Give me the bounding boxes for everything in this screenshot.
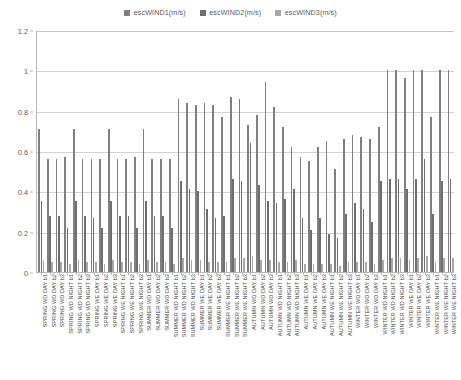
- bar-series-3[interactable]: [208, 262, 210, 272]
- bar-series-3[interactable]: [356, 262, 358, 272]
- bar-series-3[interactable]: [130, 262, 132, 272]
- x-axis-tick-label: AUTUMN WE DAY b1: [304, 274, 310, 330]
- bar-series-3[interactable]: [365, 262, 367, 272]
- x-axis-tick-label: SUMMER WE NIGHT b1: [226, 274, 232, 337]
- bar-group: [63, 31, 72, 272]
- bar-series-3[interactable]: [86, 262, 88, 272]
- bar-series-3[interactable]: [243, 258, 245, 272]
- bars-layer: [37, 31, 454, 272]
- legend-item-3[interactable]: escWIND3(m/s): [275, 9, 337, 16]
- bar-series-3[interactable]: [304, 264, 306, 272]
- bar-series-3[interactable]: [147, 260, 149, 272]
- bar-series-3[interactable]: [182, 258, 184, 272]
- bar-series-3[interactable]: [165, 262, 167, 272]
- x-axis-tick-label: SPRING WD DAY b2: [52, 274, 58, 327]
- bar-series-3[interactable]: [226, 262, 228, 272]
- bar-group: [229, 31, 238, 272]
- bar-series-3[interactable]: [139, 264, 141, 272]
- bar-series-3[interactable]: [348, 262, 350, 272]
- x-axis-tick-label: WINTER WD NIGHT b2: [391, 274, 397, 334]
- x-axis-labels: SPRING WD DAY b1SPRING WD DAY b2SPRING W…: [36, 274, 454, 378]
- bar-series-2[interactable]: [380, 181, 382, 272]
- bar-series-3[interactable]: [51, 262, 53, 272]
- bar-series-3[interactable]: [191, 260, 193, 272]
- bar-series-3[interactable]: [69, 264, 71, 272]
- bar-series-3[interactable]: [321, 264, 323, 272]
- y-axis-tick-mark: [30, 273, 33, 274]
- x-axis-tick-label: SUMMER WE NIGHT b2: [235, 274, 241, 337]
- bar-series-3[interactable]: [339, 266, 341, 272]
- bar-group: [194, 31, 203, 272]
- bar-series-3[interactable]: [60, 262, 62, 272]
- bar-series-3[interactable]: [104, 264, 106, 272]
- bar-series-3[interactable]: [374, 264, 376, 272]
- bar-group: [255, 31, 264, 272]
- x-axis-tick-label: SPRING WE NIGHT b2: [130, 274, 136, 334]
- bar-series-3[interactable]: [269, 260, 271, 272]
- bar-series-3[interactable]: [43, 260, 45, 272]
- bar-series-3[interactable]: [443, 258, 445, 272]
- bar-series-3[interactable]: [252, 256, 254, 272]
- x-axis-tick-label: SPRING WD NIGHT b1: [69, 274, 75, 334]
- bar-group: [351, 31, 360, 272]
- bar-group: [37, 31, 46, 272]
- bar-series-3[interactable]: [295, 260, 297, 272]
- bar-series-3[interactable]: [330, 264, 332, 272]
- bar-series-3[interactable]: [313, 264, 315, 272]
- x-axis-tick-label: AUTUMN WD NIGHT b2: [287, 274, 293, 336]
- bar-series-2[interactable]: [250, 143, 252, 272]
- bar-series-3[interactable]: [78, 260, 80, 272]
- y-axis-tick-label: 0.6: [18, 148, 28, 157]
- bar-group: [377, 31, 386, 272]
- bar-series-3[interactable]: [173, 264, 175, 272]
- bar-series-3[interactable]: [200, 260, 202, 272]
- bar-series-3[interactable]: [217, 262, 219, 272]
- bar-group: [89, 31, 98, 272]
- x-axis-tick-label: SUMMER WE NIGHT b3: [243, 274, 249, 337]
- bar-series-3[interactable]: [95, 262, 97, 272]
- bar-series-3[interactable]: [400, 258, 402, 272]
- bar-series-3[interactable]: [234, 258, 236, 272]
- legend-item-2[interactable]: escWIND2(m/s): [200, 9, 262, 16]
- bar-series-3[interactable]: [121, 262, 123, 272]
- bar-group: [446, 31, 455, 272]
- bar-series-3[interactable]: [452, 258, 454, 272]
- bar-group: [333, 31, 342, 272]
- bar-series-3[interactable]: [435, 262, 437, 272]
- bar-group: [272, 31, 281, 272]
- bar-group: [202, 31, 211, 272]
- y-axis-tick-mark: [30, 152, 33, 153]
- x-axis-tick-label: SUMMER WD NIGHT b3: [191, 274, 197, 337]
- legend-swatch-icon: [200, 10, 206, 16]
- bar-series-3[interactable]: [156, 262, 158, 272]
- x-axis-tick-label: SPRING WE NIGHT b1: [121, 274, 127, 334]
- x-axis-tick-label: SUMMER WD NIGHT b2: [182, 274, 188, 337]
- bar-series-3[interactable]: [426, 256, 428, 272]
- bar-group: [438, 31, 447, 272]
- y-axis-tick-mark: [30, 31, 33, 32]
- bar-group: [307, 31, 316, 272]
- x-axis-tick-label: WINTER WD DAY b1: [356, 274, 362, 328]
- bar-group: [98, 31, 107, 272]
- bar-series-3[interactable]: [409, 260, 411, 272]
- x-axis-tick-label: AUTUMN WD DAY b1: [252, 274, 258, 330]
- bar-series-3[interactable]: [260, 260, 262, 272]
- bar-series-3[interactable]: [112, 260, 114, 272]
- legend-item-1[interactable]: escWIND1(m/s): [124, 9, 186, 16]
- bar-group: [411, 31, 420, 272]
- bar-series-3[interactable]: [382, 260, 384, 272]
- x-axis-tick-label: AUTUMN WE NIGHT b2: [339, 274, 345, 336]
- x-axis-tick-label: SPRING WE NIGHT b3: [139, 274, 145, 334]
- x-axis-tick-label: SPRING WD DAY b1: [43, 274, 49, 327]
- bar-series-3[interactable]: [391, 258, 393, 272]
- bar-series-3[interactable]: [287, 262, 289, 272]
- x-axis-tick-label: SPRING WE DAY b2: [104, 274, 110, 327]
- x-axis-tick-label: SPRING WD DAY b3: [60, 274, 66, 327]
- bar-group: [133, 31, 142, 272]
- y-axis-tick-label: 0.2: [18, 228, 28, 237]
- bar-group: [115, 31, 124, 272]
- bar-group: [385, 31, 394, 272]
- x-axis-tick-label: AUTUMN WE DAY b2: [313, 274, 319, 330]
- bar-series-3[interactable]: [278, 262, 280, 272]
- bar-series-3[interactable]: [417, 258, 419, 272]
